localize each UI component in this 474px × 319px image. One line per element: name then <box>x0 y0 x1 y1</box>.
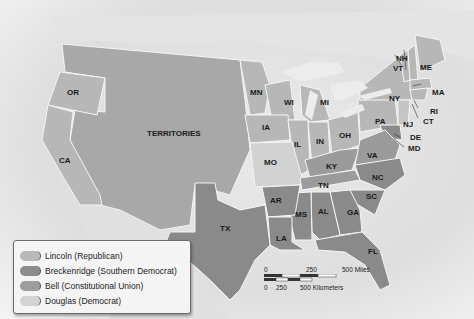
scale-miles-max: 500 Miles <box>342 266 370 273</box>
scale-km-mid: 250 <box>276 284 287 291</box>
election-map: OR CA TERRITORIES TX MN WI MI IA IL IN O… <box>0 0 474 319</box>
label-mo: MO <box>264 159 277 167</box>
label-md: MD <box>408 145 420 153</box>
legend: Lincoln (Republican) Breckenridge (South… <box>13 240 191 314</box>
label-in: IN <box>316 138 324 146</box>
scale-miles-zero: 0 <box>264 266 268 273</box>
label-nc: NC <box>372 174 384 182</box>
label-tn: TN <box>318 182 329 190</box>
scale-miles-mid: 250 <box>306 266 317 273</box>
label-ma: MA <box>432 89 444 97</box>
legend-item-breckenridge: Breckenridge (Southern Democrat) <box>20 263 190 278</box>
label-nh: NH <box>396 55 408 63</box>
label-tx: TX <box>220 225 230 233</box>
state-ct-ri <box>410 88 428 100</box>
label-ny: NY <box>389 95 400 103</box>
bell-swatch <box>20 281 41 291</box>
label-mi: MI <box>320 99 329 107</box>
breckenridge-swatch <box>20 266 41 276</box>
label-il: IL <box>294 141 301 149</box>
label-ga: GA <box>347 209 359 217</box>
label-ca: CA <box>59 157 71 165</box>
legend-item-douglas: Douglas (Democrat) <box>20 293 190 308</box>
label-pa: PA <box>375 118 386 126</box>
legend-item-lincoln: Lincoln (Republican) <box>20 248 190 263</box>
legend-label: Bell (Constitutional Union) <box>45 281 143 291</box>
label-la: LA <box>276 235 287 243</box>
legend-label: Douglas (Democrat) <box>45 296 121 306</box>
label-or: OR <box>67 89 79 97</box>
label-ar: AR <box>270 197 282 205</box>
legend-item-bell: Bell (Constitutional Union) <box>20 278 190 293</box>
label-va: VA <box>367 152 378 160</box>
label-ri: RI <box>430 108 438 116</box>
label-sc: SC <box>366 193 377 201</box>
legend-label: Lincoln (Republican) <box>45 251 123 261</box>
label-de: DE <box>410 134 421 142</box>
legend-label: Breckenridge (Southern Democrat) <box>45 266 177 276</box>
label-wi: WI <box>284 99 294 107</box>
label-vt: VT <box>393 65 403 73</box>
label-territories: TERRITORIES <box>147 130 201 138</box>
label-ky: KY <box>326 163 337 171</box>
label-oh: OH <box>339 132 351 140</box>
label-ms: MS <box>295 211 307 219</box>
label-me: ME <box>420 64 432 72</box>
label-al: AL <box>318 208 329 216</box>
lincoln-swatch <box>20 251 41 261</box>
label-ct: CT <box>423 118 434 126</box>
scale-bar: 0 250 500 Miles 0 250 500 Kilometers <box>262 266 382 296</box>
state-nh <box>408 45 418 80</box>
label-nj: NJ <box>403 121 413 129</box>
scale-km-zero: 0 <box>264 284 268 291</box>
label-mn: MN <box>250 89 262 97</box>
label-fl: FL <box>368 248 378 256</box>
douglas-swatch <box>20 296 41 306</box>
label-ia: IA <box>262 124 270 132</box>
scale-km-max: 500 Kilometers <box>300 284 343 291</box>
scale-bar-graphic <box>264 274 354 284</box>
